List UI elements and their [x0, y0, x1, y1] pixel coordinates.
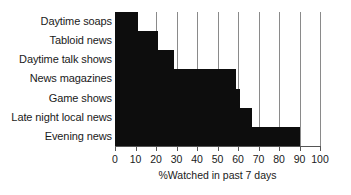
gridline-100	[320, 12, 321, 146]
x-tick-90	[300, 146, 301, 151]
bar-row	[115, 69, 320, 88]
plot-area	[115, 12, 320, 146]
x-tick-label-10: 10	[130, 152, 142, 166]
bar-row	[115, 31, 320, 50]
y-axis-label-late-night-local-news: Late night local news	[0, 108, 112, 127]
x-tick-20	[156, 146, 157, 151]
x-tick-label-0: 0	[112, 152, 118, 166]
x-tick-label-20: 20	[150, 152, 162, 166]
x-tick-label-100: 100	[311, 152, 329, 166]
x-tick-60	[238, 146, 239, 151]
x-tick-40	[197, 146, 198, 151]
bar-row	[115, 127, 320, 146]
y-axis-label-game-shows: Game shows	[0, 89, 112, 108]
y-axis-label-evening-news: Evening news	[0, 127, 112, 146]
bar-row	[115, 108, 320, 127]
x-tick-label-70: 70	[253, 152, 265, 166]
y-axis-label-tabloid-news: Tabloid news	[0, 31, 112, 50]
x-axis-title: %Watched in past 7 days	[115, 169, 320, 181]
bar-news-magazines	[115, 69, 236, 88]
x-tick-50	[218, 146, 219, 151]
x-tick-label-60: 60	[232, 152, 244, 166]
x-tick-80	[279, 146, 280, 151]
bar-row	[115, 12, 320, 31]
x-tick-label-50: 50	[212, 152, 224, 166]
x-tick-30	[177, 146, 178, 151]
y-axis-label-daytime-talk-shows: Daytime talk shows	[0, 50, 112, 69]
x-tick-label-30: 30	[171, 152, 183, 166]
x-tick-label-80: 80	[273, 152, 285, 166]
bar-tabloid-news	[115, 31, 158, 50]
x-tick-label-40: 40	[191, 152, 203, 166]
y-axis-label-news-magazines: News magazines	[0, 69, 112, 88]
x-tick-70	[259, 146, 260, 151]
bar-row	[115, 50, 320, 69]
bar-evening-news	[115, 127, 300, 146]
bar-chart: Daytime soaps Tabloid news Daytime talk …	[0, 0, 351, 195]
bar-game-shows	[115, 89, 240, 108]
bar-daytime-soaps	[115, 12, 138, 31]
bar-row	[115, 89, 320, 108]
y-axis-category-labels: Daytime soaps Tabloid news Daytime talk …	[0, 12, 112, 146]
bar-series	[115, 12, 320, 146]
y-axis-label-daytime-soaps: Daytime soaps	[0, 12, 112, 31]
x-tick-0	[115, 146, 116, 151]
x-axis-ticks	[115, 146, 320, 151]
bar-late-night-local-news	[115, 108, 252, 127]
x-axis-tick-labels: 0102030405060708090100	[115, 152, 320, 166]
bar-daytime-talk-shows	[115, 50, 174, 69]
x-tick-10	[136, 146, 137, 151]
x-tick-100	[320, 146, 321, 151]
x-tick-label-90: 90	[294, 152, 306, 166]
